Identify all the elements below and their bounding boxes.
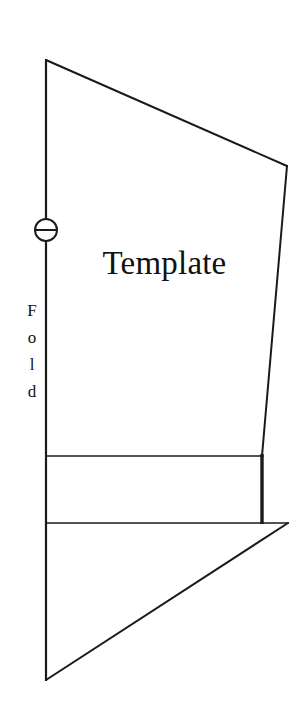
diagram-page: Template F o l d xyxy=(0,0,308,726)
template-fold-diagram xyxy=(0,0,308,726)
circle-plus-icon xyxy=(35,219,57,241)
